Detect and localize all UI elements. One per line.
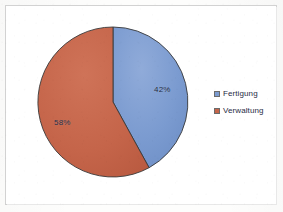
legend-swatch-icon-fertigung [214, 91, 220, 97]
legend-label-verwaltung: Verwaltung [223, 106, 264, 115]
pie-label-verwaltung: 58% [54, 118, 71, 127]
legend-swatch-icon-verwaltung [214, 108, 220, 114]
chart-screenshot: 42% 58% Fertigung Verwaltung [0, 0, 283, 212]
pie-label-fertigung: 42% [154, 85, 171, 94]
chart-legend: Fertigung Verwaltung [214, 85, 280, 119]
legend-label-fertigung: Fertigung [223, 89, 258, 98]
legend-item-verwaltung[interactable]: Verwaltung [214, 102, 280, 119]
legend-item-fertigung[interactable]: Fertigung [214, 85, 280, 102]
